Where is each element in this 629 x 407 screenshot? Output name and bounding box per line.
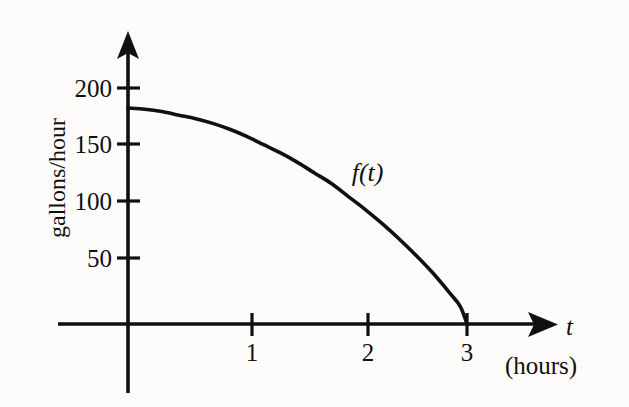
y-tick-label-150: 150 [75, 132, 113, 157]
x-tick-label-2: 2 [362, 340, 375, 365]
figure-chart: 200 150 100 50 1 2 3 gallons/hour t (hou… [0, 0, 629, 407]
x-tick-label-1: 1 [246, 340, 259, 365]
x-axis-units-label: (hours) [505, 353, 577, 378]
y-tick-label-100: 100 [75, 189, 113, 214]
data-curve-f-of-t [128, 108, 467, 324]
y-tick-label-200: 200 [75, 76, 113, 101]
curve-annotation-label: f(t) [352, 160, 384, 186]
y-axis-title: gallons/hour [45, 118, 69, 238]
x-tick-label-3: 3 [461, 340, 474, 365]
y-tick-label-50: 50 [87, 246, 112, 271]
x-axis-title: t [566, 314, 573, 339]
